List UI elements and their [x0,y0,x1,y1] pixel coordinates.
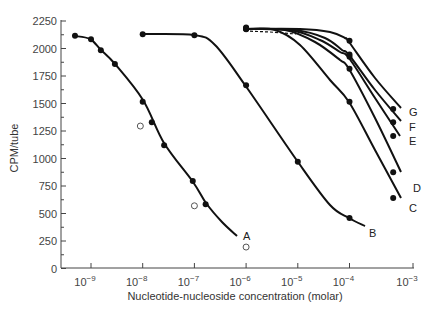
x-tick-label: 10−9 [74,274,96,288]
x-axis-label: Nucleotide-nucleoside concentration (mol… [127,290,342,302]
data-point [347,215,353,221]
y-tick-label: 1000 [33,153,57,165]
open-circle-point [243,244,249,250]
y-tick-label: 500 [39,208,57,220]
data-point [347,52,353,58]
x-tick-label: 10−6 [229,274,251,288]
data-point [347,38,353,44]
y-tick-label: 750 [39,180,57,192]
y-tick-label: 2000 [33,43,57,55]
y-tick-label: 1500 [33,98,57,110]
x-tick-label: 10−4 [333,274,355,288]
y-tick-label: 1250 [33,125,57,137]
curve-label-e: E [409,135,416,147]
data-point [390,169,396,175]
y-tick-label: 1750 [33,70,57,82]
x-tick-label: 10−3 [396,274,418,288]
data-point [98,47,104,53]
y-axis-label: CPM/tube [8,124,20,173]
data-point [203,201,209,207]
data-point [149,119,155,125]
curves [75,29,401,236]
data-point [190,178,196,184]
x-tick-label: 10−7 [178,274,200,288]
curve-c [245,29,401,198]
data-point [243,25,249,31]
open-circle-point [191,203,197,209]
data-point [243,82,249,88]
data-point [191,32,197,38]
data-point [295,159,301,165]
competition-binding-chart: 025050075010001250150017502000225010−910… [0,0,440,311]
curve-label-d: D [413,182,421,194]
curve-label-c: C [409,202,417,214]
data-point [140,99,146,105]
curve-b [143,34,365,226]
curve-f [245,29,401,121]
data-point [390,119,396,125]
y-tick-label: 0 [51,263,57,275]
curve-label-a: A [243,230,251,242]
data-point [72,33,78,39]
data-points [72,25,396,250]
curve-a [75,36,237,236]
y-tick-label: 250 [39,235,57,247]
data-point [390,195,396,201]
data-point [390,106,396,112]
x-tick-label: 10−8 [126,274,148,288]
data-point [112,61,118,67]
data-point [390,133,396,139]
curve-label-g: G [409,106,418,118]
y-tick-label: 2250 [33,15,57,27]
open-circle-point [137,123,143,129]
data-point [347,99,353,105]
data-point [161,142,167,148]
x-tick-label: 10−5 [281,274,303,288]
data-point [88,36,94,42]
data-point [140,31,146,37]
curve-label-b: B [369,227,376,239]
data-point [347,66,353,72]
curve-label-f: F [409,121,416,133]
